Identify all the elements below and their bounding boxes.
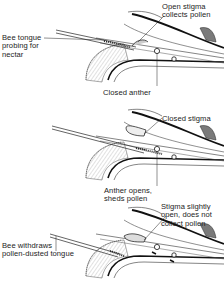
label-line: nectar — [2, 51, 41, 59]
label-line: pollen-dusted tongue — [2, 250, 74, 258]
label-anther-opens: Anther opens, sheds pollen — [104, 187, 152, 204]
label-line: Closed stigma — [162, 115, 211, 123]
label-stigma-slightly-open: Stigma slightly open, does not collect p… — [161, 203, 212, 228]
label-open-stigma: Open stigma collects pollen — [162, 3, 210, 20]
pollination-diagram: Bee tongue probing for nectar Open stigm… — [0, 0, 224, 290]
label-bee-withdraws: Bee withdraws pollen-dusted tongue — [2, 242, 74, 259]
label-line: collect pollen — [161, 220, 212, 228]
label-closed-anther: Closed anther — [103, 89, 151, 97]
label-line: sheds pollen — [104, 195, 152, 203]
label-closed-stigma: Closed stigma — [162, 115, 211, 123]
panel-1-artwork — [44, 11, 224, 86]
label-bee-tongue-probing: Bee tongue probing for nectar — [2, 34, 41, 59]
label-line: collects pollen — [162, 11, 210, 19]
label-line: Closed anther — [103, 89, 151, 97]
